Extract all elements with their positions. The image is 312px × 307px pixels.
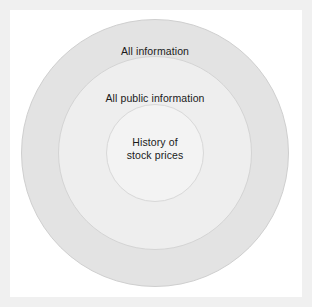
label-history-of-stock-prices: History of stock prices [107,136,203,162]
label-history-line-1: History of [107,136,203,149]
circle-history-of-stock-prices: History of stock prices [106,104,204,202]
label-history-line-2: stock prices [107,149,203,162]
figure-card: All information All public information H… [10,10,302,297]
